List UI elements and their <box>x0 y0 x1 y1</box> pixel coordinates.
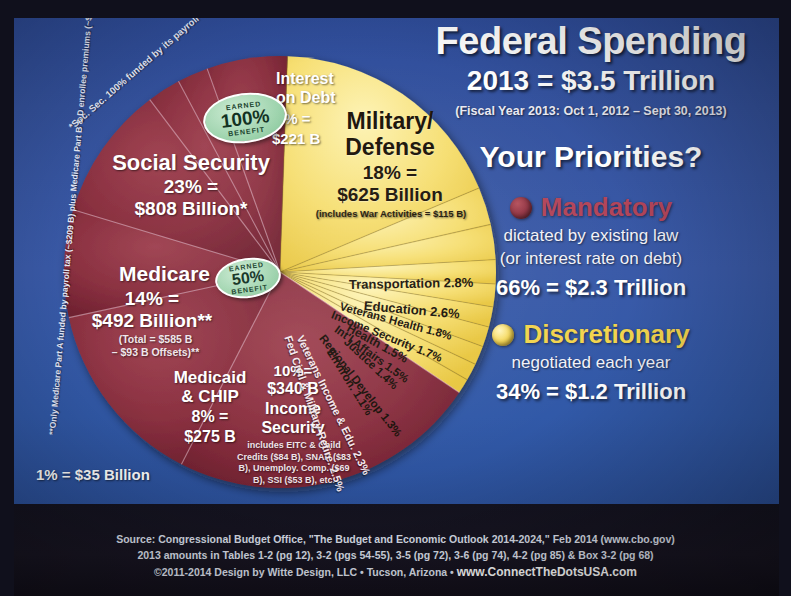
medicare-note-line2: – $93 B Offsets)** <box>68 346 243 359</box>
slice-label-interest-2: on Debt <box>276 89 356 107</box>
legend-mandatory-title: Mandatory <box>541 192 672 223</box>
legend-discretionary: Discretionary negotiated each year 34% =… <box>405 319 777 405</box>
slice-amount-social-security: $808 Billion* <box>96 198 286 220</box>
legend-discretionary-desc-1: negotiated each year <box>405 353 777 373</box>
slice-pct-medicare: 14% = <box>72 288 232 310</box>
slice-amount-medicare: $492 Billion** <box>62 310 242 332</box>
slice-note-medicare: (Total = $585 B – $93 B Offsets)** <box>68 333 243 359</box>
right-border <box>779 0 791 596</box>
left-border <box>0 0 14 596</box>
discretionary-color-swatch-icon <box>492 324 514 346</box>
legend-mandatory-desc-2: (or interest rate on debt) <box>405 249 777 269</box>
slice-label-interest-1: Interest <box>276 70 356 88</box>
page-subtitle: 2013 = $3.5 Trillion <box>405 65 777 97</box>
legend-mandatory-desc-1: dictated by existing law <box>405 226 777 246</box>
thin-label-transportation: Transportation 2.8% <box>349 275 473 292</box>
footer-credit-line: ©2011-2014 Design by Witte Design, LLC •… <box>0 563 791 582</box>
medicare-note-line1: (Total = $585 B <box>68 333 243 346</box>
page-title: Federal Spending <box>405 22 777 60</box>
legend-discretionary-head: Discretionary <box>405 319 777 350</box>
footer: Source: Congressional Budget Office, "Th… <box>0 531 791 582</box>
slice-label-income-security-1: Income <box>248 400 338 418</box>
priorities-heading: Your Priorities? <box>405 140 777 174</box>
footer-credit-text: ©2011-2014 Design by Witte Design, LLC •… <box>154 566 457 578</box>
slice-note-military: (includes War Activities = $115 B) <box>308 208 474 219</box>
legend-discretionary-total: 34% = $1.2 Trillion <box>405 379 777 405</box>
slice-label-medicare: Medicare <box>80 262 210 286</box>
legend-discretionary-title: Discretionary <box>523 319 689 350</box>
slice-amount-military: $625 Billion <box>320 184 460 206</box>
footer-website: www.ConnectTheDotsUSA.com <box>457 565 637 579</box>
footer-source-line: Source: Congressional Budget Office, "Th… <box>0 531 791 547</box>
scale-note: 1% = $35 Billion <box>36 466 150 483</box>
mandatory-color-swatch-icon <box>510 197 532 219</box>
slice-label-military-1: Military/ <box>330 108 450 135</box>
top-border <box>0 0 791 18</box>
slice-pct-social-security: 23% = <box>96 176 286 198</box>
footer-tables-line: 2013 amounts in Tables 1-2 (pg 12), 3-2 … <box>0 547 791 563</box>
slice-pct-military: 18% = <box>330 162 450 184</box>
slice-label-social-security: Social Security <box>96 150 286 176</box>
slice-label-military-2: Defense <box>330 134 450 161</box>
infographic-poster: *Soc. Sec. 100% funded by its payroll ta… <box>0 0 791 596</box>
fiscal-year-note: (Fiscal Year 2013: Oct 1, 2012 – Sept 30… <box>405 104 777 118</box>
